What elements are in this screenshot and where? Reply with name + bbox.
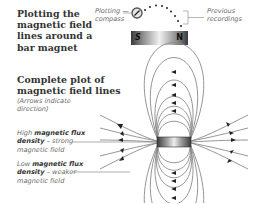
bar-magnet-field — [157, 137, 191, 147]
recording-dots — [144, 5, 182, 28]
compass-icon — [132, 8, 142, 18]
field-lines — [100, 43, 248, 204]
field-diagram — [0, 0, 261, 203]
recordings-bracket — [183, 11, 204, 24]
